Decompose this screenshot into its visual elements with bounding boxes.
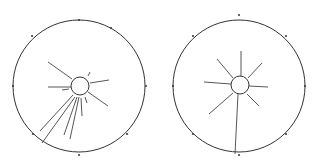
tick-mark xyxy=(238,14,240,16)
left-radial-diagram xyxy=(12,19,147,156)
tick-mark xyxy=(192,35,194,37)
tick-mark xyxy=(172,85,174,87)
tick-mark xyxy=(78,154,80,156)
ray-line xyxy=(85,97,87,103)
ray-line xyxy=(42,97,75,143)
ray-line xyxy=(90,80,109,83)
tick-mark xyxy=(192,133,194,135)
right-radial-diagram xyxy=(172,14,306,156)
ray-line xyxy=(88,92,108,106)
tick-mark xyxy=(31,35,33,37)
tick-mark xyxy=(110,27,112,29)
inner-circle xyxy=(231,76,249,94)
ray-line xyxy=(62,89,69,90)
ray-line xyxy=(235,94,238,154)
tick-mark xyxy=(32,133,34,135)
ray-line xyxy=(248,63,262,78)
ray-line xyxy=(249,86,268,87)
diagram-canvas xyxy=(0,0,320,164)
ray-line xyxy=(204,82,231,84)
ray-line xyxy=(40,95,73,131)
ray-line xyxy=(81,98,82,116)
ray-line xyxy=(48,62,72,79)
ray-line xyxy=(217,59,233,78)
tick-mark xyxy=(304,85,306,87)
tick-mark xyxy=(238,154,240,156)
tick-mark xyxy=(285,35,287,37)
tick-mark xyxy=(145,85,147,87)
tick-mark xyxy=(78,19,80,21)
tick-mark xyxy=(285,133,287,135)
tick-mark xyxy=(12,85,14,87)
tick-mark xyxy=(126,133,128,135)
ray-line xyxy=(88,72,90,76)
ray-line xyxy=(247,94,259,106)
inner-circle xyxy=(71,77,89,95)
ray-line xyxy=(209,93,233,114)
